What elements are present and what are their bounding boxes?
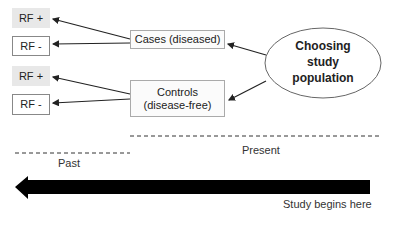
arrow-cases-rf-pos [53, 19, 130, 39]
label: RF + [19, 70, 43, 83]
cases-label: Cases (diseased) [135, 33, 221, 46]
label: RF - [20, 40, 41, 53]
cases-rf-positive: RF + [12, 8, 50, 28]
controls-box: Controls (disease-free) [130, 80, 225, 117]
cases-box: Cases (diseased) [130, 30, 225, 49]
timeline-arrow-icon [15, 176, 370, 199]
controls-rf-negative: RF - [12, 94, 50, 115]
population-label: Choosing study population [266, 38, 380, 86]
arrow-population-cases [228, 44, 266, 55]
arrow-cases-rf-neg [53, 43, 130, 44]
cases-rf-negative: RF - [12, 36, 50, 56]
study-begins-label: Study begins here [283, 198, 372, 210]
present-label: Present [242, 144, 280, 156]
population-line-3: population [266, 70, 380, 86]
arrow-population-controls [229, 81, 266, 100]
label: RF - [20, 98, 41, 111]
population-line-1: Choosing [266, 38, 380, 54]
controls-rf-positive: RF + [12, 66, 50, 86]
controls-label-line-1: Controls [157, 86, 198, 99]
arrow-controls-rf-neg [53, 99, 130, 103]
past-label: Past [58, 157, 80, 169]
label: RF + [19, 12, 43, 25]
arrow-controls-rf-pos [53, 77, 130, 94]
controls-label-line-2: (disease-free) [144, 99, 212, 112]
population-line-2: study [266, 54, 380, 70]
